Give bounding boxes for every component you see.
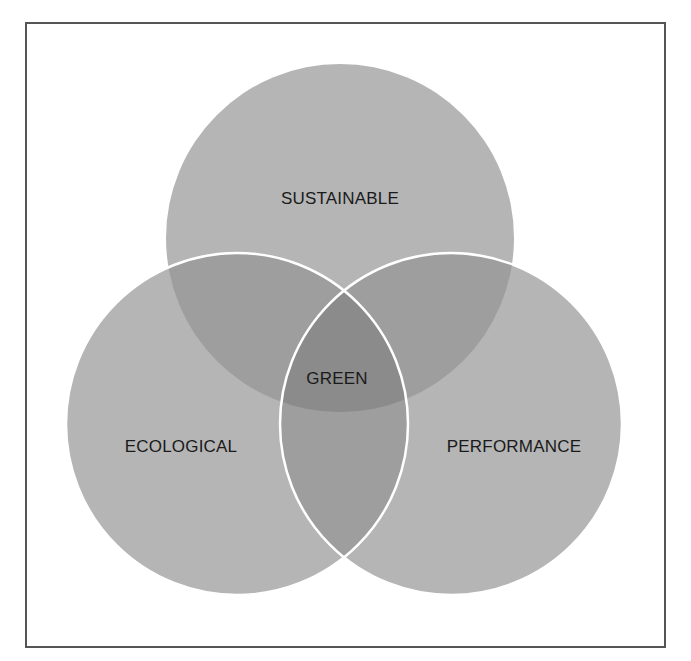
label-green: GREEN [306,369,367,388]
label-performance: PERFORMANCE [447,437,581,456]
label-sustainable: SUSTAINABLE [281,189,399,208]
label-ecological: ECOLOGICAL [125,437,238,456]
venn-diagram: SUSTAINABLE ECOLOGICAL PERFORMANCE GREEN [0,0,691,661]
